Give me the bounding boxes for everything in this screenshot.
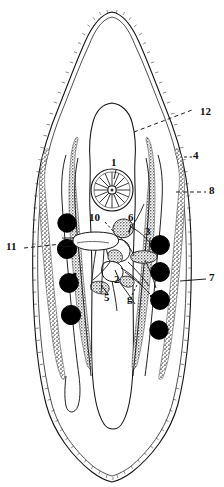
figure-label-7: 7 xyxy=(209,272,215,283)
dark-organ xyxy=(150,321,168,339)
dark-organ xyxy=(151,236,170,255)
figure-label-1: 1 xyxy=(111,157,117,168)
figure-label-8: 8 xyxy=(209,185,215,196)
figure-label-g: g xyxy=(127,293,133,304)
vitelline-reservoir xyxy=(131,251,157,264)
figure-label-5: 5 xyxy=(104,292,110,303)
figure-label-4: 4 xyxy=(193,150,199,161)
figure-label-3: 3 xyxy=(145,226,151,237)
figure-label-2: 2 xyxy=(114,274,120,285)
radial-organ xyxy=(91,169,133,211)
figure-label-12: 12 xyxy=(200,106,211,117)
figure-label-10: 10 xyxy=(89,212,100,223)
anatomical-figure: 1 2 3 4 5 6 7 8 10 11 12 g xyxy=(0,0,224,487)
dark-organ xyxy=(58,214,76,232)
dark-organ xyxy=(61,305,80,324)
figure-label-6: 6 xyxy=(128,212,134,223)
figure-canvas xyxy=(0,0,224,487)
figure-label-11: 11 xyxy=(6,241,16,252)
dark-organ xyxy=(151,263,170,282)
